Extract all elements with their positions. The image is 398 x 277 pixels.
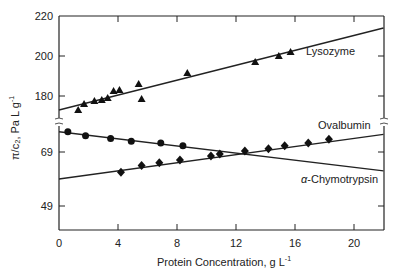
y-axis-title-sup: -1 — [8, 96, 15, 102]
circle-marker — [179, 142, 186, 149]
label-chymotrypsin-rest: -Chymotrypsin — [307, 173, 378, 185]
x-tick-label: 0 — [56, 237, 62, 249]
diamond-marker — [207, 152, 215, 161]
x-tick-label: 16 — [289, 237, 301, 249]
circle-marker — [157, 140, 164, 147]
y-tick-label: 180 — [35, 90, 53, 102]
y-tick-label: 200 — [35, 50, 53, 62]
x-tick-label: 8 — [174, 237, 180, 249]
circle-marker — [64, 128, 71, 135]
y-tick-label: 220 — [35, 10, 53, 22]
y-axis-title-main: π/c₂, Pa L g — [9, 102, 21, 160]
label-lysozyme: Lysozyme — [306, 45, 355, 57]
diamond-marker — [117, 168, 125, 177]
x-tick-label: 4 — [115, 237, 121, 249]
triangle-marker — [115, 86, 123, 93]
y-tick-label: 49 — [41, 200, 53, 212]
label-chymotrypsin: α-Chymotrypsin — [301, 173, 378, 185]
x-tick-label: 20 — [348, 237, 360, 249]
x-axis-title-main: Protein Concentration, g L — [157, 256, 285, 268]
triangle-marker — [135, 80, 143, 87]
axis-break-left — [55, 118, 63, 124]
x-axis-title: Protein Concentration, g L-1 — [157, 255, 291, 268]
triangle-marker — [287, 48, 295, 55]
diamond-marker — [304, 139, 312, 148]
triangle-marker — [74, 106, 82, 113]
triangle-marker — [183, 69, 191, 76]
circle-marker — [82, 132, 89, 139]
circle-marker — [107, 135, 114, 142]
axis-break-right — [380, 118, 388, 124]
chart-svg: 0481216201802002204969 Lysozyme Ovalbumi… — [0, 0, 398, 277]
triangle-marker — [138, 95, 146, 102]
y-axis-title: π/c₂, Pa L g-1 — [8, 96, 21, 160]
label-ovalbumin: Ovalbumin — [318, 119, 371, 131]
diamond-marker — [264, 144, 272, 153]
circle-marker — [128, 138, 135, 145]
data-markers — [64, 48, 333, 177]
y-tick-label: 69 — [41, 146, 53, 158]
x-axis-title-sup: -1 — [285, 255, 291, 262]
x-tick-label: 12 — [230, 237, 242, 249]
